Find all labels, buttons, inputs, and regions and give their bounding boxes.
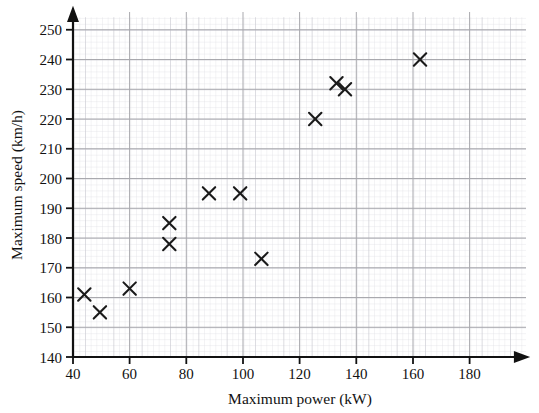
- x-axis-title: Maximum power (kW): [228, 390, 372, 408]
- y-tick-label: 170: [40, 260, 63, 276]
- x-tick-label: 40: [66, 366, 81, 382]
- x-tick-label: 80: [179, 366, 194, 382]
- y-tick-label: 210: [40, 141, 63, 157]
- y-tick-label: 190: [40, 201, 63, 217]
- y-tick-label: 230: [40, 82, 63, 98]
- y-tick-label: 180: [40, 231, 63, 247]
- y-tick-label: 140: [40, 350, 63, 366]
- y-tick-label: 200: [40, 171, 63, 187]
- y-tick-label: 250: [40, 22, 63, 38]
- y-axis-title: Maximum speed (km/h): [8, 110, 26, 260]
- x-tick-label: 120: [288, 366, 311, 382]
- scatter-chart: 140 150 160 170 180 190 200 210 220 230 …: [0, 0, 539, 413]
- x-tick-label: 100: [232, 366, 255, 382]
- y-tick-label: 160: [40, 290, 63, 306]
- x-tick-labels: 40 60 80 100 120 140 160 180: [66, 366, 481, 382]
- x-tick-label: 160: [402, 366, 425, 382]
- plot-area-svg: 140 150 160 170 180 190 200 210 220 230 …: [0, 0, 539, 413]
- x-tick-label: 140: [345, 366, 368, 382]
- y-tick-labels: 140 150 160 170 180 190 200 210 220 230 …: [40, 22, 63, 365]
- x-tick-label: 180: [458, 366, 481, 382]
- y-tick-label: 240: [40, 52, 63, 68]
- y-tick-label: 220: [40, 112, 63, 128]
- x-tick-label: 60: [122, 366, 137, 382]
- y-tick-label: 150: [40, 320, 63, 336]
